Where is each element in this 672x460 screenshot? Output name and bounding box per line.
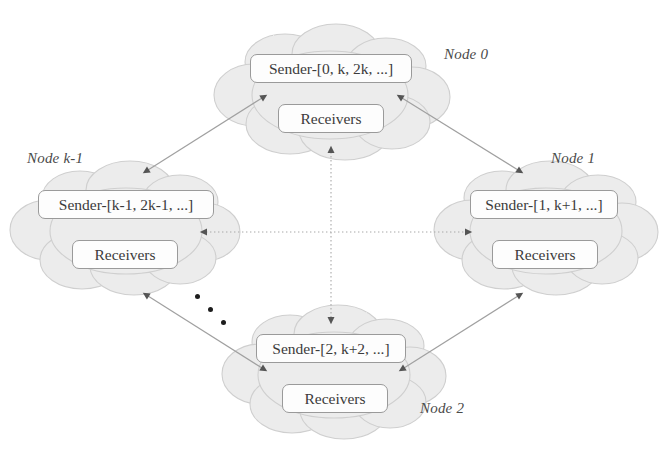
cloud-node-0 [214,24,450,160]
network-topology-diagram: Sender-[0, k, 2k, ...] Receivers Node 0 … [0,0,672,460]
more-nodes-ellipsis-dot-1 [195,294,200,299]
sender-label-node-k-1: Sender-[k-1, 2k-1, ...] [59,196,193,214]
more-nodes-ellipsis-dot-2 [208,307,213,312]
link-k1-to-0 [148,98,262,170]
sender-box-node-k-1: Sender-[k-1, 2k-1, ...] [38,190,214,219]
sender-label-node-0: Sender-[0, k, 2k, ...] [269,60,393,78]
sender-box-node-1: Sender-[1, k+1, ...] [470,190,618,219]
sender-label-node-2: Sender-[2, k+2, ...] [272,340,389,358]
sender-box-node-0: Sender-[0, k, 2k, ...] [250,54,412,83]
link-k1-to-2 [148,296,262,368]
cloud-node-2 [222,305,446,439]
node-label-node-k-1: Node k-1 [27,150,83,167]
sender-box-node-2: Sender-[2, k+2, ...] [256,334,406,363]
cloud-node-1 [434,161,658,295]
sender-label-node-1: Sender-[1, k+1, ...] [485,196,602,214]
receivers-label-node-k-1: Receivers [94,246,155,264]
node-label-node-0: Node 0 [444,46,488,63]
receivers-box-node-2: Receivers [282,384,388,413]
receivers-box-node-0: Receivers [278,104,384,133]
receivers-label-node-2: Receivers [304,390,365,408]
node-label-node-2: Node 2 [420,400,464,417]
cloud-node-k-1 [10,161,240,295]
link-1-to-2 [404,296,518,368]
more-nodes-ellipsis-dot-3 [221,320,226,325]
node-label-node-1: Node 1 [551,150,595,167]
receivers-label-node-1: Receivers [514,246,575,264]
receivers-label-node-0: Receivers [300,110,361,128]
receivers-box-node-1: Receivers [492,240,598,269]
receivers-box-node-k-1: Receivers [72,240,178,269]
